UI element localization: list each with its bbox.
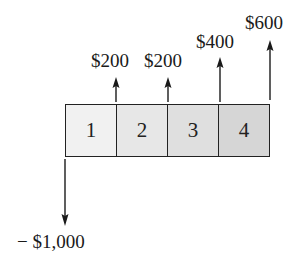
- inflow-amount-1: $200: [91, 51, 129, 71]
- inflow-amount-2: $200: [144, 51, 182, 71]
- inflow-amount-3: $400: [196, 32, 234, 52]
- inflow-arrow-1: [113, 77, 120, 102]
- period-timeline: 1 2 3 4: [65, 104, 270, 157]
- period-label: 1: [86, 118, 97, 143]
- inflow-arrow-2: [165, 77, 172, 102]
- cash-flow-diagram: 1 2 3 4 $200 $200 $400 $600 − $1,000: [0, 0, 307, 275]
- inflow-amount-4: $600: [245, 13, 283, 33]
- period-label: 3: [188, 118, 199, 143]
- period-label: 4: [239, 118, 250, 143]
- inflow-arrow-4: [267, 40, 274, 100]
- period-cell-3: 3: [167, 105, 218, 156]
- period-cell-1: 1: [66, 105, 116, 156]
- period-label: 2: [137, 118, 148, 143]
- outflow-arrow-0: [62, 159, 69, 226]
- inflow-arrow-3: [217, 57, 224, 102]
- outflow-amount-0: − $1,000: [17, 232, 85, 252]
- period-cell-4: 4: [218, 105, 269, 156]
- period-cell-2: 2: [116, 105, 167, 156]
